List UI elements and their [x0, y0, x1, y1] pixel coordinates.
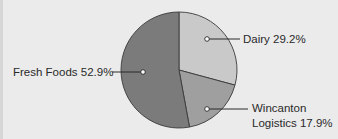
leader-dot	[205, 37, 210, 42]
leader-dot	[205, 107, 210, 112]
label-dairy: Dairy 29.2%	[243, 32, 306, 46]
label-wincanton-line2: Logistics 17.9%	[252, 116, 333, 130]
pie-slices	[121, 12, 237, 128]
label-fresh-foods: Fresh Foods 52.9%	[13, 65, 113, 79]
label-wincanton-line1: Wincanton	[252, 101, 306, 115]
slice-fresh-foods	[121, 12, 190, 128]
leader-dot	[141, 70, 146, 75]
